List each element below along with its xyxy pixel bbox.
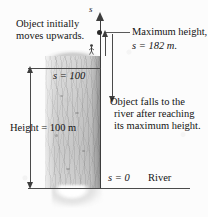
physics-diagram: s Object initially moves upwards. Maximu…: [0, 0, 208, 217]
cliff-height-label: Height = 100 m: [10, 122, 76, 134]
down-arrow-shaft: [112, 34, 113, 98]
falling-line1: Object falls to the: [110, 96, 185, 108]
up-arrow-head: [102, 30, 108, 37]
river-baseline: [28, 188, 190, 189]
falling-line3: its maximum height.: [114, 120, 201, 132]
rock-speck: [82, 150, 85, 152]
cliff-top-reference-line: [28, 68, 101, 69]
up-arrow-shaft: [105, 36, 106, 56]
datum-value-label: s = 0: [108, 172, 130, 184]
initial-motion-line2: moves upwards.: [16, 30, 84, 42]
height-dimension-arrow-bottom: [27, 182, 33, 189]
person-icon: [88, 44, 95, 55]
falling-line2: river after reaching: [114, 108, 194, 120]
max-height-line2: s = 182 m.: [132, 40, 177, 52]
max-height-line1: Maximum height,: [132, 26, 207, 38]
rock-speck: [60, 95, 63, 97]
rock-speck: [55, 134, 58, 137]
s-axis: [100, 15, 101, 189]
s-axis-label: s: [89, 4, 93, 14]
river-label: River: [148, 172, 171, 184]
height-dimension-arrow-top: [27, 66, 33, 73]
max-height-leader-line: [104, 32, 130, 33]
s-axis-arrowhead: [96, 12, 104, 21]
cliff-top-value-label: s = 100: [53, 70, 85, 82]
initial-motion-line1: Object initially: [16, 18, 79, 30]
rock-speck: [75, 112, 79, 114]
rock-speck: [66, 168, 70, 170]
